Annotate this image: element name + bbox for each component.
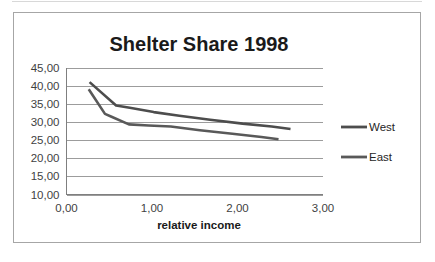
- y-axis-tick-labels: 10,0015,0020,0025,0030,0035,0040,0045,00: [31, 62, 60, 201]
- y-axis-tick-label: 40,00: [31, 80, 60, 92]
- series-line-east: [89, 89, 279, 139]
- y-axis-tick-label: 35,00: [31, 98, 60, 110]
- y-axis-tick-label: 30,00: [31, 116, 60, 128]
- chart-title: Shelter Share 1998: [110, 33, 289, 55]
- x-axis-tick-label: 0,00: [55, 202, 77, 214]
- x-axis-title: relative income: [157, 219, 241, 231]
- screenshot-root: Shelter Share 1998 10,0015,0020,0025,003…: [0, 0, 435, 262]
- y-axis-tick-label: 15,00: [31, 170, 60, 182]
- chart-container: Shelter Share 1998 10,0015,0020,0025,003…: [13, 12, 421, 243]
- x-axis-tick-label: 2,00: [226, 202, 248, 214]
- x-axis-tick-label: 1,00: [141, 202, 163, 214]
- series-lines: [89, 82, 291, 139]
- x-axis-tick-labels: 0,001,002,003,00: [55, 202, 334, 214]
- legend-label-west: West: [369, 121, 396, 133]
- y-axis-tick-label: 25,00: [31, 134, 60, 146]
- y-axis-tick-label: 20,00: [31, 152, 60, 164]
- y-axis-tick-label: 45,00: [31, 62, 60, 74]
- y-axis-tick-label: 10,00: [31, 189, 60, 201]
- page-top-rule: [12, 1, 422, 2]
- chart-legend: WestEast: [341, 121, 396, 163]
- x-axis-tick-label: 3,00: [312, 202, 334, 214]
- legend-label-east: East: [369, 151, 393, 163]
- line-chart: Shelter Share 1998 10,0015,0020,0025,003…: [14, 13, 422, 244]
- gridlines: [67, 69, 324, 196]
